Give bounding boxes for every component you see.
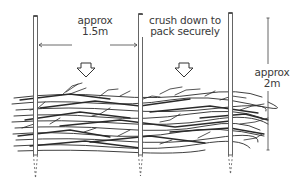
width-label-line2: 1.5m	[70, 26, 120, 37]
width-label: approx 1.5m	[70, 15, 120, 37]
height-label: approx 2m	[248, 67, 296, 89]
down-arrow-right-icon	[175, 63, 193, 77]
stake-1	[34, 15, 38, 178]
stake-2	[139, 13, 143, 176]
brushwood-pile	[12, 83, 278, 153]
crush-label-line2: pack securely	[142, 26, 228, 37]
height-label-line2: 2m	[248, 78, 296, 89]
down-arrow-left-icon	[77, 63, 95, 77]
crush-instruction-label: crush down to pack securely	[142, 15, 228, 37]
stake-3	[229, 12, 233, 174]
width-dimension-line	[39, 43, 137, 47]
